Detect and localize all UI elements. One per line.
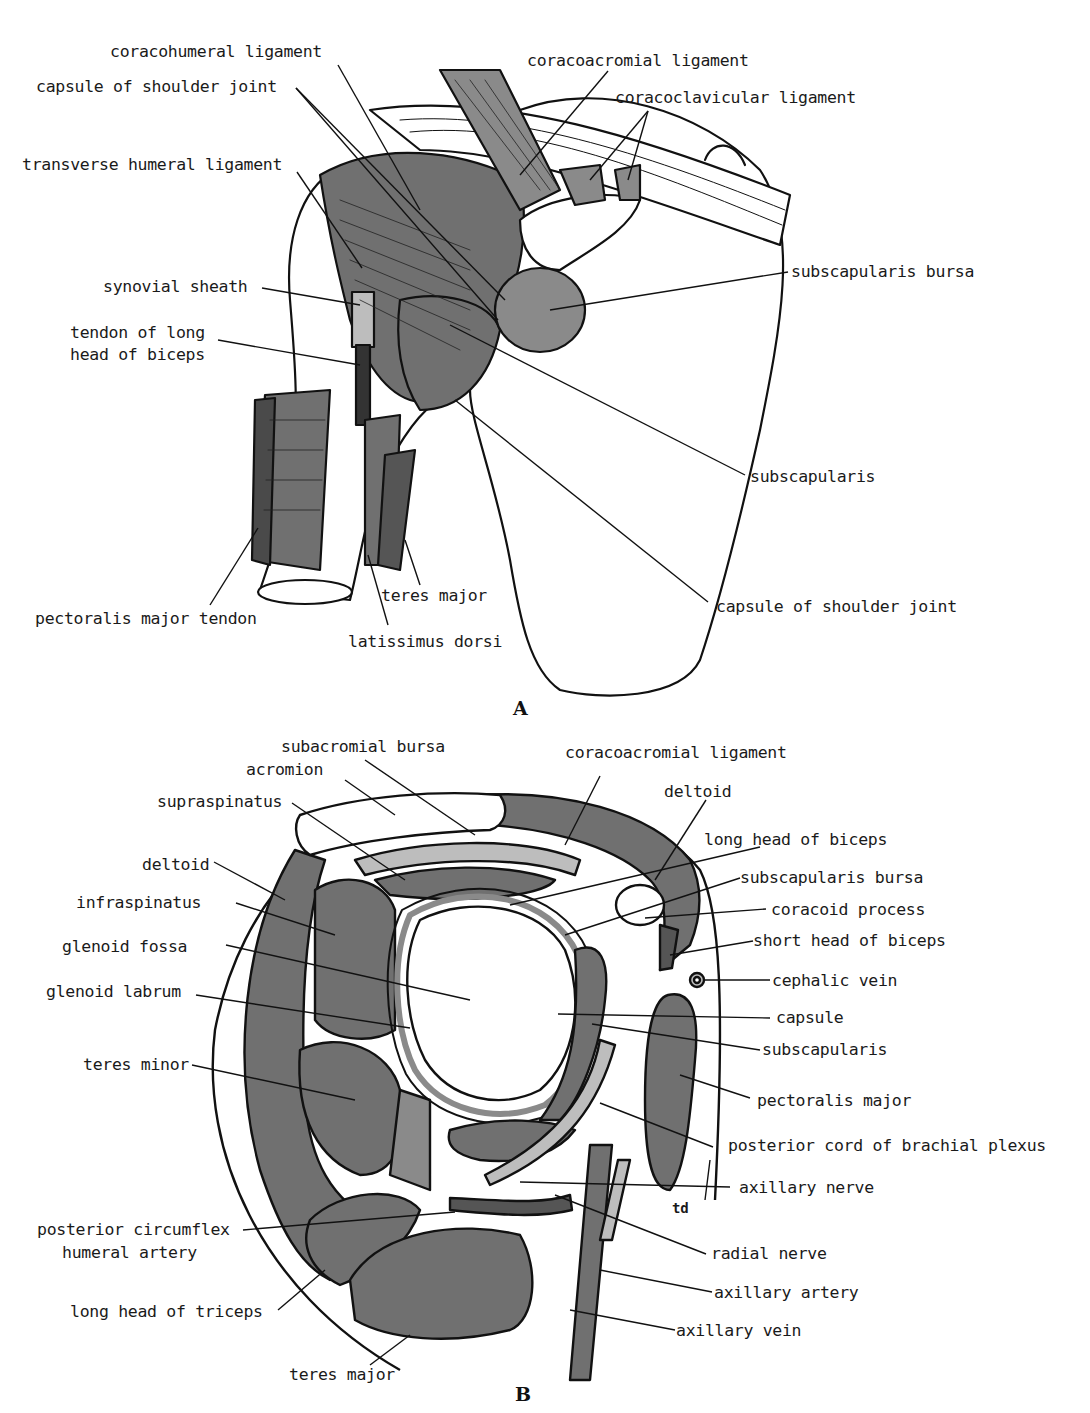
panel-letter-a: A xyxy=(513,697,528,719)
label-pectoralis-major-tendon: pectoralis major tendon xyxy=(35,609,257,629)
label-posterior-circumflex-line1: posterior circumflex xyxy=(37,1220,230,1240)
label-teres-major-a: teres major xyxy=(381,586,487,606)
label-long-head-of-biceps: long head of biceps xyxy=(704,830,887,850)
label-deltoid-right: deltoid xyxy=(664,782,731,802)
humeral-head xyxy=(407,907,575,1100)
label-coracohumeral-ligament: coracohumeral ligament xyxy=(110,42,322,62)
label-short-head-of-biceps: short head of biceps xyxy=(753,931,946,951)
pectoralis-major-shape xyxy=(645,994,696,1190)
subscapularis-bursa-shape xyxy=(495,268,585,352)
label-subscapularis-a: subscapularis xyxy=(750,467,875,487)
label-capsule-of-shoulder-joint-bottom: capsule of shoulder joint xyxy=(716,597,957,617)
label-glenoid-fossa: glenoid fossa xyxy=(62,937,187,957)
label-deltoid-left: deltoid xyxy=(142,855,209,875)
artist-signature: td xyxy=(672,1198,688,1218)
label-subscapularis-b: subscapularis xyxy=(762,1040,887,1060)
label-capsule: capsule xyxy=(776,1008,843,1028)
label-acromion: acromion xyxy=(246,760,323,780)
label-cephalic-vein: cephalic vein xyxy=(772,971,897,991)
label-coracoclavicular-ligament: coracoclavicular ligament xyxy=(615,88,856,108)
label-posterior-cord-brachial-plexus: posterior cord of brachial plexus xyxy=(728,1136,1046,1156)
label-pectoralis-major: pectoralis major xyxy=(757,1091,911,1111)
label-glenoid-labrum: glenoid labrum xyxy=(46,982,181,1002)
label-axillary-vein: axillary vein xyxy=(676,1321,801,1341)
label-axillary-nerve: axillary nerve xyxy=(739,1178,874,1198)
label-posterior-circumflex-line2: humeral artery xyxy=(62,1243,197,1263)
label-teres-minor: teres minor xyxy=(83,1055,189,1075)
label-coracoid-process: coracoid process xyxy=(771,900,925,920)
label-subscapularis-bursa-b: subscapularis bursa xyxy=(740,868,923,888)
label-teres-major-b: teres major xyxy=(289,1365,395,1385)
label-infraspinatus: infraspinatus xyxy=(76,893,201,913)
label-coracoacromial-ligament-b: coracoacromial ligament xyxy=(565,743,787,763)
panel-a-artwork xyxy=(0,0,1090,1413)
anatomy-figure: coracohumeral ligament capsule of should… xyxy=(0,0,1090,1413)
label-tendon-long-head-biceps-line2: head of biceps xyxy=(70,345,205,365)
label-axillary-artery: axillary artery xyxy=(714,1283,859,1303)
label-transverse-humeral-ligament: transverse humeral ligament xyxy=(22,155,282,175)
label-supraspinatus: supraspinatus xyxy=(157,792,282,812)
label-long-head-of-triceps: long head of triceps xyxy=(70,1302,263,1322)
label-capsule-of-shoulder-joint-top: capsule of shoulder joint xyxy=(36,77,277,97)
label-subacromial-bursa: subacromial bursa xyxy=(281,737,445,757)
label-tendon-long-head-biceps-line1: tendon of long xyxy=(70,323,205,343)
label-synovial-sheath: synovial sheath xyxy=(103,277,248,297)
label-coracoacromial-ligament-a: coracoacromial ligament xyxy=(527,51,749,71)
label-latissimus-dorsi: latissimus dorsi xyxy=(348,632,502,652)
label-subscapularis-bursa-a: subscapularis bursa xyxy=(791,262,974,282)
label-radial-nerve: radial nerve xyxy=(711,1244,827,1264)
panel-letter-b: B xyxy=(515,1383,531,1405)
